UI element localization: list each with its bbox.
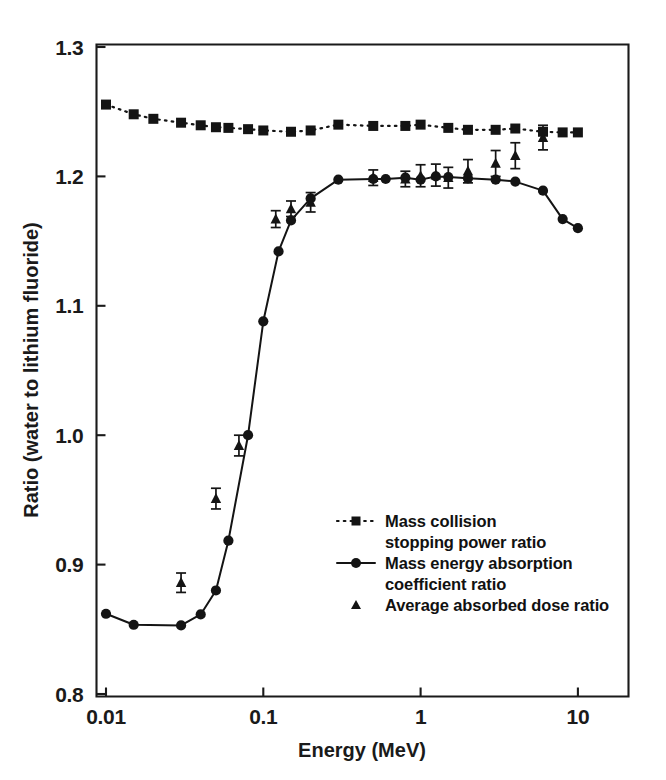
y-tick-label: 0.8 [55,683,84,706]
data-point-square [558,127,568,137]
legend-label-line: coefficient ratio [385,575,506,593]
x-axis-tick-labels: 0.010.1110 [86,705,589,728]
y-tick-label: 1.1 [55,294,84,317]
data-point-circle [223,536,233,546]
data-point-circle [558,214,568,224]
x-tick-label: 0.01 [86,705,126,728]
y-tick-label: 1.2 [55,165,83,188]
data-point-square [368,121,378,131]
data-point-square [196,120,206,130]
data-point-square [243,124,253,134]
data-point-square [491,125,501,135]
legend-label-line: Average absorbed dose ratio [385,596,609,614]
chart-canvas: 0.80.91.01.11.21.3 0.010.1110 Energy (Me… [0,0,666,780]
data-point-circle [176,620,186,630]
x-tick-label: 1 [415,705,427,728]
legend-marker-circle-solid-icon [337,558,375,568]
series-mass-collision-stopping-power-ratio [101,100,583,138]
y-axis-ticks [97,47,106,694]
data-point-circle [333,175,343,185]
chart-legend: Mass collision stopping power ratio Mass… [337,512,609,614]
data-point-circle [129,620,139,630]
data-point-square [129,109,139,119]
y-tick-label: 1.3 [55,36,83,59]
data-point-triangle [510,150,520,160]
data-point-square [400,121,410,131]
data-point-triangle [176,577,186,587]
data-point-triangle [490,158,500,168]
x-axis-title: Energy (MeV) [298,739,426,761]
y-tick-label: 1.0 [55,424,83,447]
y-tick-label: 0.9 [55,553,83,576]
data-point-circle [510,176,520,186]
data-point-triangle [271,214,281,224]
data-point-circle [258,316,268,326]
data-point-square [223,123,233,133]
data-point-square [333,120,343,130]
legend-label-line: Mass energy absorption [385,554,573,572]
data-point-circle [538,186,548,196]
data-point-square [211,122,221,132]
data-point-square [573,127,583,137]
data-point-square [306,125,316,135]
legend-label-line: Mass collision [385,512,496,530]
data-point-circle [211,585,221,595]
data-point-square [176,118,186,128]
legend-entry-average-absorbed-dose-ratio: Average absorbed dose ratio [351,596,609,614]
x-tick-label: 0.1 [249,705,278,728]
legend-marker-triangle-icon [351,600,361,609]
data-point-square [148,114,158,124]
x-tick-label: 10 [567,705,590,728]
data-point-square [101,100,111,110]
data-point-circle [381,174,391,184]
data-point-circle [196,609,206,619]
legend-entry-mass-energy-absorption-coefficient-ratio: Mass energy absorption coefficient ratio [337,554,573,593]
x-axis-ticks [106,688,578,697]
legend-label-line: stopping power ratio [385,533,546,551]
data-point-square [443,123,453,133]
data-point-circle [243,430,253,440]
data-point-triangle [463,166,473,176]
figure-container: 0.80.91.01.11.21.3 0.010.1110 Energy (Me… [0,0,666,780]
legend-entry-mass-collision-stopping-power-ratio: Mass collision stopping power ratio [337,512,546,551]
legend-marker-square-dotted-icon [337,517,375,526]
y-axis-tick-labels: 0.80.91.01.11.21.3 [55,36,84,706]
data-point-triangle [234,440,244,450]
data-point-circle [273,246,283,256]
data-point-circle [101,609,111,619]
data-point-square [416,120,426,130]
data-point-square [286,127,296,137]
data-point-square [258,125,268,135]
data-point-triangle [286,203,296,213]
data-point-square [463,125,473,135]
y-axis-title: Ratio (water to lithium fluoride) [20,222,42,518]
data-point-triangle [211,493,221,503]
data-point-triangle [415,170,425,180]
data-point-square [510,124,520,134]
data-point-circle [573,223,583,233]
